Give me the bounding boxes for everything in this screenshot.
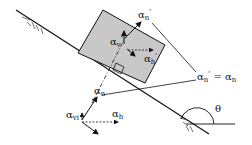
equation-label: αn' = αn [197, 70, 237, 84]
label-alpha-n: αn [94, 85, 106, 98]
label-alpha-h: αh [112, 108, 124, 121]
slope-diagram: αn' αv' αh' αn αvi αh αn' = αn θ [0, 0, 252, 145]
alpha-n-arrow [82, 97, 97, 120]
ground-hatch-icon-2 [180, 118, 193, 132]
leader-line-bottom [102, 80, 196, 95]
down-slope-arrow [82, 122, 98, 134]
theta-arc [181, 108, 214, 124]
label-alpha-vi: αvi [66, 109, 80, 122]
label-theta: θ [215, 103, 221, 114]
label-alpha-n-prime-top: αn' [138, 8, 151, 22]
